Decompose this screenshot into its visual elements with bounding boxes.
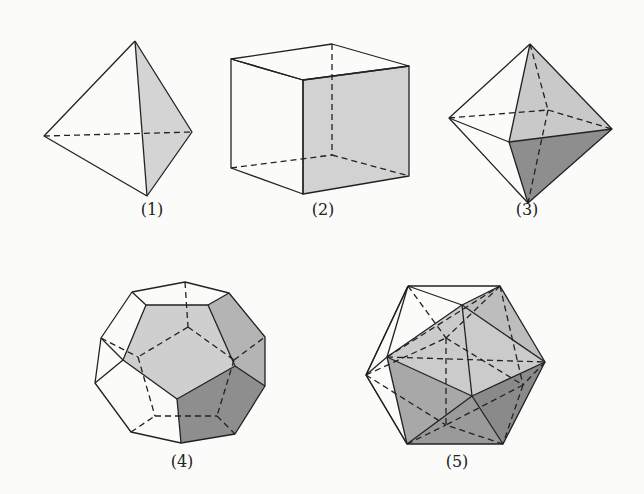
label-icosahedron: (5)	[446, 452, 469, 471]
label-cube: (2)	[312, 200, 335, 219]
label-dodecahedron: (4)	[171, 452, 194, 471]
tetrahedron	[44, 41, 192, 196]
cube	[231, 44, 409, 194]
icosahedron	[366, 286, 545, 444]
dodecahedron	[95, 282, 265, 443]
polyhedra-figure	[0, 0, 644, 494]
label-octahedron: (3)	[516, 200, 539, 219]
label-tetrahedron: (1)	[141, 200, 164, 219]
octahedron	[449, 44, 612, 203]
